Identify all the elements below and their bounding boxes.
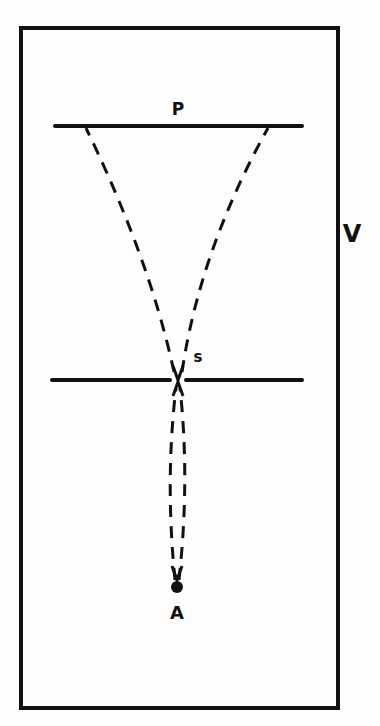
diagram-canvas: P S A V bbox=[0, 0, 380, 726]
ray-upper-right bbox=[182, 128, 268, 372]
label-source: A bbox=[170, 602, 184, 623]
slit-arrow-up-icon bbox=[173, 382, 183, 396]
label-vessel: V bbox=[343, 220, 362, 248]
source-point bbox=[171, 581, 183, 593]
label-slit: S bbox=[194, 348, 203, 366]
ray-upper-left bbox=[86, 128, 174, 372]
label-plate: P bbox=[172, 99, 184, 119]
ray-lower-right bbox=[179, 388, 185, 580]
ray-lower-left bbox=[170, 388, 176, 580]
